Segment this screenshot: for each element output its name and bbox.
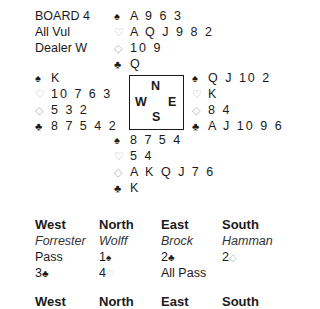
bid: Pass xyxy=(35,249,105,265)
diamond-icon: ◇ xyxy=(192,102,208,118)
east-clubs: A J 10 9 6 3 xyxy=(208,118,286,134)
bid: All Pass xyxy=(161,265,231,281)
south-diamonds: A K Q J 7 6 xyxy=(130,164,215,180)
compass-west: W xyxy=(135,95,147,109)
header-south: South xyxy=(222,216,286,233)
player-south: Hamman xyxy=(222,233,286,249)
east-hearts: K xyxy=(208,86,218,102)
heart-icon: ♡ xyxy=(192,86,208,102)
heart-icon: ♡ xyxy=(106,268,115,279)
compass-south: S xyxy=(152,110,160,124)
bid: 1♠ xyxy=(99,249,169,265)
heart-icon: ♡ xyxy=(35,86,51,102)
east-diamonds: 8 4 xyxy=(208,102,231,118)
club-icon: ♣ xyxy=(168,252,175,263)
auction-col-east: East Brock 2♣ All Pass xyxy=(161,216,231,281)
spade-icon: ♠ xyxy=(114,132,130,148)
north-hearts: A Q J 9 8 2 xyxy=(130,24,214,40)
west-clubs: 8 7 5 4 2 xyxy=(51,118,118,134)
vulnerability: All Vul xyxy=(35,24,90,40)
player-east: Brock xyxy=(161,233,231,249)
compass-box: N W E S xyxy=(129,75,184,130)
spade-icon: ♠ xyxy=(192,70,208,86)
club-icon: ♣ xyxy=(35,118,51,134)
bid: 4♡ xyxy=(99,265,169,281)
diamond-icon: ◇ xyxy=(229,252,237,263)
header-east: East xyxy=(161,216,231,233)
south-spades: 8 7 5 4 xyxy=(130,132,182,148)
player-north: Wolff xyxy=(99,233,169,249)
auction-col-north: North Wolff 1♠ 4♡ xyxy=(99,216,169,281)
spade-icon: ♠ xyxy=(106,252,111,263)
header-east: East xyxy=(161,293,231,309)
diamond-icon: ◇ xyxy=(35,102,51,118)
west-spades: K xyxy=(51,70,61,86)
north-spades: A 9 6 3 xyxy=(130,8,183,24)
bid: 2♣ xyxy=(161,249,231,265)
spade-icon: ♠ xyxy=(35,70,51,86)
heart-icon: ♡ xyxy=(114,148,130,164)
board-info: BOARD 4 All Vul Dealer W xyxy=(35,8,90,56)
board-number: BOARD 4 xyxy=(35,8,90,24)
south-clubs: K xyxy=(130,180,140,196)
header-west: West xyxy=(35,216,105,233)
auction-col-west: West Forrester Pass 3♣ xyxy=(35,216,105,281)
header-north: North xyxy=(99,293,169,309)
header-south: South xyxy=(222,293,286,309)
club-icon: ♣ xyxy=(42,268,49,279)
heart-icon: ♡ xyxy=(114,24,130,40)
diamond-icon: ◇ xyxy=(114,164,130,180)
club-icon: ♣ xyxy=(114,180,130,196)
header-north: North xyxy=(99,216,169,233)
east-hand: ♠Q J 10 2 ♡K ◇8 4 ♣A J 10 9 6 3 xyxy=(192,70,286,134)
bid: 3♣ xyxy=(35,265,105,281)
spade-icon: ♠ xyxy=(114,8,130,24)
west-diamonds: 5 3 2 xyxy=(51,102,89,118)
compass-north: N xyxy=(151,79,160,93)
player-west: Forrester xyxy=(35,233,105,249)
header-west: West xyxy=(35,293,105,309)
diamond-icon: ◇ xyxy=(114,40,130,56)
west-hearts: 10 7 6 3 xyxy=(51,86,112,102)
dealer: Dealer W xyxy=(35,40,90,56)
compass-east: E xyxy=(168,95,176,109)
north-hand: ♠A 9 6 3 ♡A Q J 9 8 2 ◇10 9 ♣Q xyxy=(114,8,214,72)
west-hand: ♠K ♡10 7 6 3 ◇5 3 2 ♣8 7 5 4 2 xyxy=(35,70,118,134)
north-clubs: Q xyxy=(130,56,142,72)
north-diamonds: 10 9 xyxy=(130,40,162,56)
south-hearts: 5 4 xyxy=(130,148,153,164)
east-spades: Q J 10 2 xyxy=(208,70,271,86)
bid: 2◇ xyxy=(222,249,286,265)
south-hand: ♠8 7 5 4 ♡5 4 ◇A K Q J 7 6 ♣K xyxy=(114,132,215,196)
auction-col-south: South Hamman 2◇ xyxy=(222,216,286,265)
